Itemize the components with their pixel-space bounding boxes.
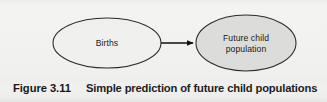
figure-container: Births Future child population Figure 3.… bbox=[0, 0, 327, 102]
figure-number: Figure 3.11 bbox=[13, 82, 71, 94]
future-child-population-ellipse-shape bbox=[196, 15, 296, 71]
diagram-area: Births Future child population bbox=[0, 0, 327, 76]
figure-caption-text: Simple prediction of future child popula… bbox=[86, 82, 317, 94]
caption: Figure 3.11 Simple prediction of future … bbox=[13, 82, 317, 94]
future-child-population-label-line-1: Future child bbox=[223, 33, 269, 43]
caption-bar: Figure 3.11 Simple prediction of future … bbox=[0, 76, 327, 102]
node-future-child-population[interactable]: Future child population bbox=[196, 15, 296, 71]
future-child-population-label-line-2: population bbox=[226, 44, 267, 54]
node-births[interactable]: Births bbox=[53, 18, 161, 68]
flow-diagram: Births Future child population bbox=[0, 0, 327, 76]
births-label: Births bbox=[96, 38, 119, 48]
